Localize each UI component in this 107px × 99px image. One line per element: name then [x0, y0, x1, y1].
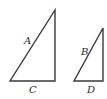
large-right-triangle — [10, 10, 55, 81]
label-base-large: C — [29, 84, 37, 95]
label-base-small: D — [86, 84, 95, 95]
label-hypotenuse-small: B — [80, 46, 88, 57]
triangles-diagram: A C B D — [0, 0, 107, 99]
small-right-triangle — [74, 28, 103, 81]
label-hypotenuse-large: A — [23, 35, 31, 46]
